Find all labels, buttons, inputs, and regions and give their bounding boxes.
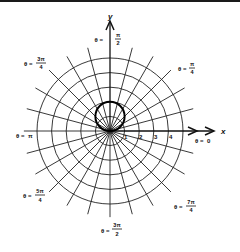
svg-text:θ =: θ =	[101, 228, 110, 234]
angle-label-3pi-2: θ = 3π 2	[101, 222, 122, 237]
svg-text:0: 0	[207, 138, 211, 144]
angle-label-3pi-4: θ = 3π 4	[24, 56, 46, 70]
angle-label-7pi-4: θ = 7π 4	[174, 199, 196, 213]
svg-text:4: 4	[189, 207, 193, 213]
tick-label-1: 1	[124, 134, 128, 140]
svg-text:π: π	[28, 133, 33, 139]
radial-lines	[24, 48, 193, 217]
svg-text:θ =: θ =	[24, 61, 33, 67]
svg-text:θ =: θ =	[195, 138, 204, 144]
radial-line	[110, 70, 171, 131]
radial-line	[110, 131, 132, 214]
radial-line	[110, 109, 193, 131]
tick-label-2: 2	[139, 134, 143, 140]
svg-text:θ =: θ =	[178, 66, 187, 72]
svg-text:3π: 3π	[113, 222, 121, 228]
angle-label-pi-2: θ = π 2	[95, 32, 121, 46]
radial-line	[110, 131, 193, 153]
radial-line	[67, 56, 110, 131]
svg-text:π: π	[116, 32, 121, 38]
radial-line	[110, 131, 153, 206]
radial-line	[110, 48, 132, 131]
svg-text:7π: 7π	[187, 199, 195, 205]
radial-line	[110, 131, 185, 174]
radial-line	[35, 131, 110, 174]
svg-text:2: 2	[115, 231, 118, 237]
radial-line	[49, 131, 110, 192]
radial-line	[67, 131, 110, 206]
radial-line	[27, 131, 110, 153]
svg-text:θ =: θ =	[16, 133, 25, 139]
svg-text:5π: 5π	[36, 188, 44, 194]
x-axis-label: x	[220, 127, 226, 136]
radial-line	[110, 56, 153, 131]
svg-text:4: 4	[38, 197, 42, 203]
angle-label-5pi-4: θ = 5π 4	[23, 188, 45, 203]
radial-line	[88, 48, 110, 131]
radial-line	[110, 131, 171, 192]
radial-line	[27, 109, 110, 131]
svg-text:θ =: θ =	[174, 204, 183, 210]
svg-text:4: 4	[190, 69, 194, 75]
radial-line	[88, 131, 110, 214]
svg-text:θ =: θ =	[95, 37, 104, 43]
tick-label-3: 3	[154, 134, 158, 140]
tick-label-4: 4	[169, 134, 173, 140]
radial-line	[49, 70, 110, 131]
svg-text:π: π	[190, 61, 195, 67]
angle-label-0: θ = 0	[195, 138, 211, 144]
polar-diagram: y x 1 2 3 4 θ = 0 θ = π 2 θ = π 4 θ = 3π…	[0, 0, 240, 252]
svg-text:3π: 3π	[37, 56, 45, 62]
svg-text:θ =: θ =	[23, 193, 32, 199]
angle-label-pi-4: θ = π 4	[178, 61, 195, 75]
svg-text:2: 2	[116, 40, 119, 46]
svg-text:4: 4	[39, 64, 43, 70]
angle-label-pi: θ = π	[16, 133, 33, 139]
y-axis-label: y	[107, 12, 113, 21]
